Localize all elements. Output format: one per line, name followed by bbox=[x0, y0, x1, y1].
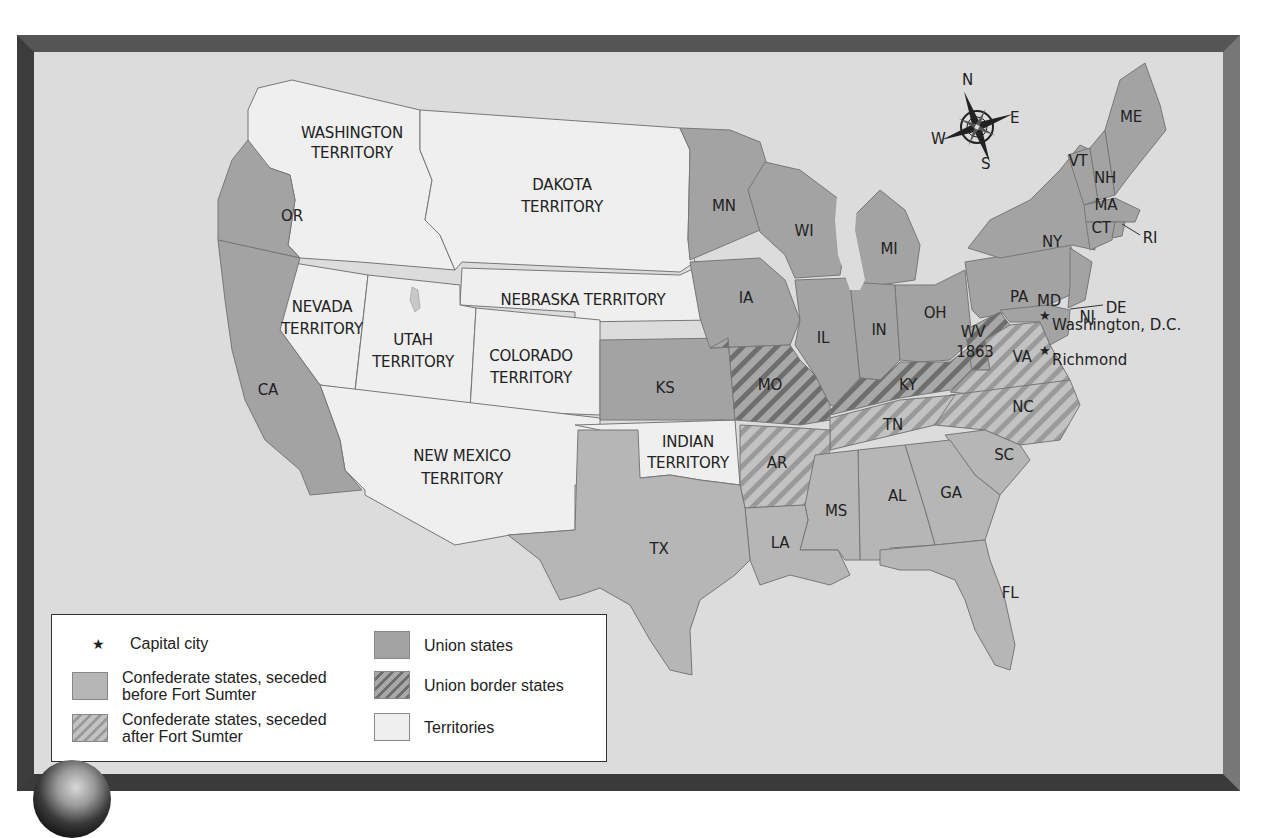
territory-swatch bbox=[374, 713, 410, 741]
label-nc: NC bbox=[1012, 398, 1033, 416]
svg-text:N: N bbox=[962, 71, 973, 89]
label-wv: WV bbox=[961, 323, 987, 341]
union-swatch bbox=[374, 631, 410, 659]
label-nh: NH bbox=[1094, 169, 1116, 187]
label-vt: VT bbox=[1068, 152, 1088, 170]
svg-text:1863: 1863 bbox=[956, 343, 993, 361]
label-ct: CT bbox=[1091, 219, 1111, 237]
svg-text:TERRITORY: TERRITORY bbox=[489, 369, 573, 387]
label-pa: PA bbox=[1010, 288, 1029, 306]
label-al: AL bbox=[888, 487, 907, 505]
label-mo: MO bbox=[758, 376, 782, 394]
compass-rose-icon: N E S W bbox=[931, 71, 1019, 173]
state-pa bbox=[965, 245, 1080, 318]
state-nj bbox=[1068, 248, 1092, 308]
label-me: ME bbox=[1120, 108, 1142, 126]
capital-star-richmond: ★ bbox=[1039, 343, 1051, 358]
label-ca: CA bbox=[258, 381, 279, 399]
label-ar: AR bbox=[767, 454, 787, 472]
svg-text:TERRITORY: TERRITORY bbox=[310, 144, 394, 162]
state-fl bbox=[880, 540, 1015, 670]
legend-item-territories: Territories bbox=[374, 713, 494, 741]
legend-item-union: Union states bbox=[374, 631, 513, 659]
svg-text:TERRITORY: TERRITORY bbox=[420, 470, 504, 488]
label-il: IL bbox=[817, 329, 830, 347]
label-washington-dc: Washington, D.C. bbox=[1052, 316, 1181, 334]
border-swatch bbox=[374, 671, 410, 699]
legend-item-capital: ★ Capital city bbox=[80, 635, 208, 652]
label-wi: WI bbox=[795, 222, 814, 240]
confederate-before-swatch bbox=[72, 672, 108, 700]
ri-leader-line bbox=[1122, 224, 1140, 235]
label-mi: MI bbox=[881, 240, 898, 258]
label-indian-territory: INDIAN bbox=[662, 433, 714, 451]
label-ky: KY bbox=[899, 376, 918, 394]
svg-text:TERRITORY: TERRITORY bbox=[371, 353, 455, 371]
globe-icon bbox=[33, 760, 111, 838]
label-la: LA bbox=[771, 534, 791, 552]
label-nebraska-territory: NEBRASKA TERRITORY bbox=[500, 291, 666, 309]
label-dakota-territory: DAKOTA bbox=[532, 176, 592, 194]
label-ga: GA bbox=[940, 484, 962, 502]
svg-text:TERRITORY: TERRITORY bbox=[280, 320, 364, 338]
confederate-after-swatch bbox=[72, 714, 108, 742]
legend-item-confederate-after: Confederate states, seceded after Fort S… bbox=[72, 711, 327, 745]
svg-text:TERRITORY: TERRITORY bbox=[520, 198, 604, 216]
map-legend: ★ Capital city Confederate states, seced… bbox=[51, 614, 607, 762]
label-oh: OH bbox=[924, 304, 947, 322]
label-ri: RI bbox=[1143, 229, 1157, 247]
label-washington-territory: WASHINGTON bbox=[301, 124, 403, 142]
label-fl: FL bbox=[1002, 584, 1019, 602]
label-ks: KS bbox=[656, 379, 675, 397]
capital-star-icon: ★ bbox=[80, 636, 116, 652]
label-ny: NY bbox=[1042, 233, 1063, 251]
capital-star-dc: ★ bbox=[1039, 308, 1051, 323]
svg-text:W: W bbox=[931, 130, 946, 148]
svg-text:S: S bbox=[981, 155, 990, 173]
legend-item-border: Union border states bbox=[374, 671, 564, 699]
label-nevada-territory: NEVADA bbox=[292, 298, 354, 316]
label-ma: MA bbox=[1095, 196, 1119, 214]
label-ia: IA bbox=[739, 289, 754, 307]
label-sc: SC bbox=[994, 446, 1014, 464]
label-utah-territory: UTAH bbox=[393, 331, 433, 349]
label-colorado-territory: COLORADO bbox=[489, 347, 573, 365]
svg-text:E: E bbox=[1010, 109, 1019, 127]
svg-text:TERRITORY: TERRITORY bbox=[646, 454, 730, 472]
label-ms: MS bbox=[825, 502, 847, 520]
label-or: OR bbox=[281, 207, 303, 225]
label-va: VA bbox=[1012, 348, 1032, 366]
label-in: IN bbox=[871, 321, 886, 339]
label-richmond: Richmond bbox=[1052, 351, 1127, 369]
label-new-mexico-territory: NEW MEXICO bbox=[413, 447, 511, 465]
label-tn: TN bbox=[882, 416, 903, 434]
label-tx: TX bbox=[648, 540, 668, 558]
label-de: DE bbox=[1106, 299, 1127, 317]
label-mn: MN bbox=[712, 197, 736, 215]
legend-item-confederate-before: Confederate states, seceded before Fort … bbox=[72, 669, 327, 703]
